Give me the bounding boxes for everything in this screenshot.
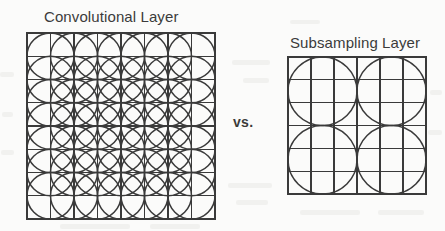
receptive-field-circle <box>357 57 426 126</box>
vs-separator-label: vs. <box>233 115 253 129</box>
receptive-field-circle <box>288 126 357 195</box>
subsampling-layer-diagram <box>288 57 426 194</box>
subsampling-layer-figure <box>288 57 426 194</box>
receptive-field-circle <box>288 57 357 126</box>
receptive-field-circle <box>357 126 426 195</box>
convolutional-layer-diagram <box>27 33 215 219</box>
grid-lines <box>27 33 215 219</box>
convolutional-layer-figure <box>27 33 215 219</box>
figure-canvas: Convolutional Layer vs. Subsampling Laye… <box>0 0 445 231</box>
grid-lines <box>288 57 426 194</box>
convolutional-layer-title: Convolutional Layer <box>44 9 178 24</box>
subsampling-layer-title: Subsampling Layer <box>290 35 420 50</box>
